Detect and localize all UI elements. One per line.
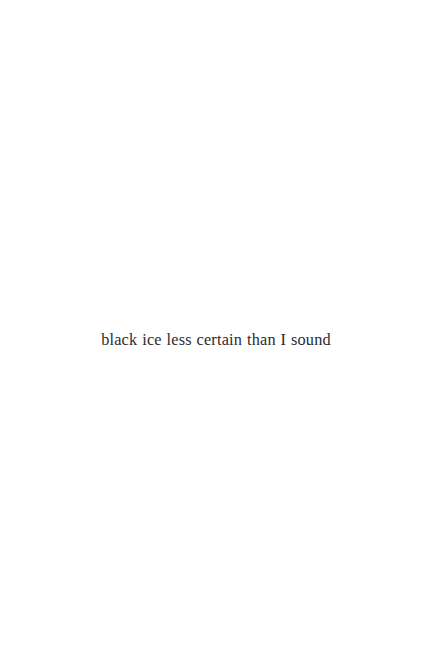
page-canvas: black ice less certain than I sound [0,0,432,670]
text-block: black ice less certain than I sound [0,329,432,351]
poem-line: black ice less certain than I sound [101,329,331,351]
